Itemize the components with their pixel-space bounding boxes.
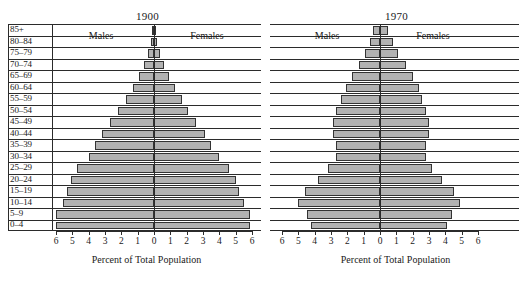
bar-male bbox=[373, 26, 380, 35]
axis-tick bbox=[252, 231, 253, 235]
bar-male bbox=[126, 95, 154, 104]
bar-female bbox=[154, 153, 219, 162]
label-gutter-rule bbox=[8, 129, 9, 140]
axis-tick-label: 1 bbox=[168, 236, 173, 247]
center-axis-1900 bbox=[154, 24, 155, 231]
age-group-label: 15–19 bbox=[10, 187, 32, 196]
bar-male bbox=[56, 210, 154, 219]
label-gutter-rule bbox=[52, 117, 53, 128]
axis-tick bbox=[462, 231, 463, 235]
bar-male bbox=[89, 153, 154, 162]
age-group-label: 45–49 bbox=[10, 118, 32, 127]
bar-female bbox=[380, 187, 454, 196]
bar-male bbox=[311, 222, 380, 230]
bar-male bbox=[118, 107, 154, 116]
axis-tick-label: 0 bbox=[152, 236, 157, 247]
age-row: 10–14 bbox=[8, 197, 261, 209]
age-row bbox=[270, 185, 519, 197]
bar-female bbox=[380, 61, 406, 70]
bar-female bbox=[380, 130, 429, 139]
age-row bbox=[270, 70, 519, 82]
label-gutter-rule bbox=[52, 106, 53, 117]
label-gutter-rule bbox=[8, 209, 9, 220]
label-gutter-rule bbox=[52, 152, 53, 163]
axis-tick-label: 5 bbox=[233, 236, 238, 247]
label-gutter-rule bbox=[52, 25, 53, 36]
age-row bbox=[270, 151, 519, 163]
age-row bbox=[270, 128, 519, 140]
label-gutter-rule bbox=[8, 175, 9, 186]
bar-male bbox=[346, 84, 380, 93]
bar-female bbox=[154, 72, 169, 81]
age-row: 50–54 bbox=[8, 105, 261, 117]
label-gutter-rule bbox=[52, 163, 53, 174]
axis-tick bbox=[203, 231, 204, 235]
chart-panel-1970: 1970 Males Females 6543210123456 Percent… bbox=[270, 0, 519, 265]
bar-female bbox=[154, 130, 205, 139]
bar-female bbox=[154, 164, 229, 173]
label-gutter-rule bbox=[8, 37, 9, 48]
label-gutter-rule bbox=[8, 48, 9, 59]
axis-tick bbox=[429, 231, 430, 235]
bar-male bbox=[305, 187, 380, 196]
plot-area-1900: 85+80–8475–7970–7465–6960–6455–5950–5445… bbox=[8, 24, 261, 231]
bar-male bbox=[110, 118, 154, 127]
age-row: 55–59 bbox=[8, 93, 261, 105]
label-gutter-rule bbox=[52, 37, 53, 48]
x-axis-title-1900: Percent of Total Population bbox=[8, 254, 261, 265]
label-gutter-rule bbox=[8, 83, 9, 94]
label-gutter-rule bbox=[52, 48, 53, 59]
age-row bbox=[270, 47, 519, 59]
bar-male bbox=[333, 118, 380, 127]
bar-male bbox=[95, 141, 154, 150]
label-gutter-rule bbox=[8, 152, 9, 163]
label-gutter-rule bbox=[52, 60, 53, 71]
bar-male bbox=[102, 130, 154, 139]
age-group-label: 10–14 bbox=[10, 198, 32, 207]
bar-male bbox=[336, 107, 380, 116]
axis-tick-label: 3 bbox=[427, 236, 432, 247]
bar-male bbox=[56, 222, 154, 230]
axis-tick-label: 1 bbox=[135, 236, 140, 247]
axis-tick-label: 4 bbox=[86, 236, 91, 247]
axis-tick bbox=[413, 231, 414, 235]
bar-male bbox=[71, 176, 154, 185]
legend-females-1900: Females bbox=[190, 30, 223, 41]
label-gutter-rule bbox=[52, 221, 53, 231]
label-gutter-rule bbox=[52, 186, 53, 197]
label-gutter-rule bbox=[8, 163, 9, 174]
bar-female bbox=[380, 153, 426, 162]
population-pyramid-figure: 1900 85+80–8475–7970–7465–6960–6455–5950… bbox=[0, 0, 519, 285]
label-gutter-rule bbox=[8, 71, 9, 82]
axis-tick-label: 3 bbox=[201, 236, 206, 247]
bar-female bbox=[380, 26, 388, 35]
age-row: 40–44 bbox=[8, 128, 261, 140]
bar-female bbox=[154, 107, 188, 116]
bar-male bbox=[328, 164, 380, 173]
center-axis-1970 bbox=[380, 24, 381, 231]
bar-female bbox=[380, 222, 447, 230]
bar-male bbox=[365, 49, 380, 58]
age-row: 25–29 bbox=[8, 162, 261, 174]
axis-tick-label: 3 bbox=[329, 236, 334, 247]
bar-male bbox=[298, 199, 380, 208]
age-row: 5–9 bbox=[8, 208, 261, 220]
chart-panel-1900: 1900 85+80–8475–7970–7465–6960–6455–5950… bbox=[8, 0, 261, 265]
bar-female bbox=[380, 176, 442, 185]
axis-tick bbox=[364, 231, 365, 235]
axis-tick-label: 5 bbox=[296, 236, 301, 247]
age-row bbox=[270, 59, 519, 71]
age-group-label: 75–79 bbox=[10, 49, 32, 58]
age-row: 20–24 bbox=[8, 174, 261, 186]
legend-females-1970: Females bbox=[416, 30, 449, 41]
age-group-label: 35–39 bbox=[10, 141, 32, 150]
axis-tick bbox=[138, 231, 139, 235]
axis-tick-label: 4 bbox=[443, 236, 448, 247]
bar-male bbox=[336, 141, 380, 150]
axis-tick bbox=[219, 231, 220, 235]
bar-male bbox=[370, 38, 380, 47]
bar-female bbox=[154, 187, 239, 196]
bar-female bbox=[154, 118, 196, 127]
age-row bbox=[270, 93, 519, 105]
bar-female bbox=[154, 84, 175, 93]
